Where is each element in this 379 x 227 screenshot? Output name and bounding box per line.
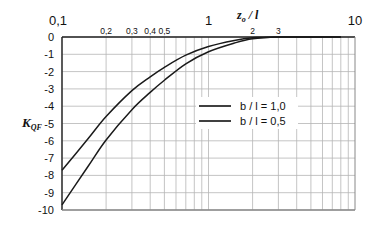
x-major-tick-label: 10 [348,13,362,28]
legend-label-1: b / l = 1,0 [240,100,286,112]
chart-canvas: 0-1-2-3-4-5-6-7-8-9-10 0,11100,20,30,40,… [0,0,379,227]
y-tick-label: -6 [44,135,54,147]
x-minor-tick-label: 2 [250,26,255,36]
x-major-tick-label: 1 [205,13,212,28]
y-tick-label: -8 [44,169,54,181]
svg-text:zo / l: zo / l [236,8,259,24]
y-tick-label: -1 [44,48,54,60]
y-tick-label: -9 [44,187,54,199]
y-tick-label: -3 [44,83,54,95]
y-axis-title: KQF [21,115,42,132]
y-tick-label: -5 [44,118,54,130]
x-minor-tick-label: 3 [276,26,281,36]
x-axis-tick-labels: 0,11100,20,30,40,523 [49,13,362,36]
y-tick-label: -7 [44,152,54,164]
svg-text:KQF: KQF [21,115,42,132]
y-tick-label: -10 [38,204,54,216]
x-axis-title: zo / l [236,8,259,24]
x-minor-tick-label: 0,3 [126,26,138,36]
y-tick-label: -4 [44,100,54,112]
x-minor-tick-label: 0,4 [144,26,156,36]
y-tick-label: 0 [48,31,54,43]
x-major-tick-label: 0,1 [49,13,67,28]
x-minor-tick-label: 0,5 [158,26,170,36]
legend-label-2: b / l = 0,5 [240,115,286,127]
y-tick-label: -2 [44,66,54,78]
x-minor-tick-label: 0,2 [100,26,112,36]
legend: b / l = 1,0 b / l = 0,5 [196,97,298,129]
